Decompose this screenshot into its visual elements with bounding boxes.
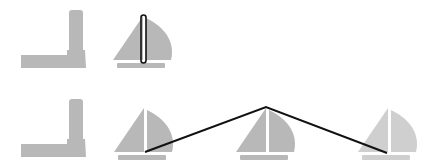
sailboat-icon	[113, 16, 172, 68]
sailboat-icon	[358, 108, 417, 160]
diagram-canvas	[0, 0, 439, 168]
lighthouse-icon	[21, 10, 86, 68]
mast-highlight	[141, 15, 146, 63]
lighthouse-icon	[21, 99, 86, 157]
sailboat-icon	[114, 108, 173, 160]
